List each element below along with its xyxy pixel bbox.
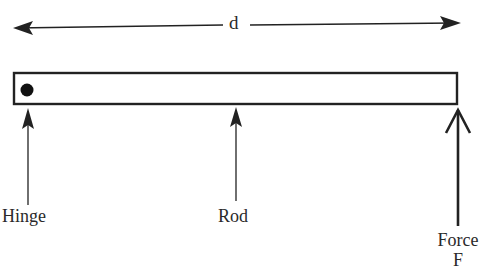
dimension-label-d: d (229, 12, 239, 34)
hinge-label: Hinge (2, 206, 46, 226)
hinge-pointer-arrow (22, 108, 34, 205)
rod-label: Rod (218, 206, 248, 226)
rod-pointer-arrow (230, 107, 242, 201)
rod-body (14, 73, 457, 104)
force-label-line2: F (430, 250, 486, 270)
force-label-line1: Force (430, 230, 486, 250)
force-label: Force F (430, 230, 486, 270)
hinge-pivot-icon (21, 84, 34, 97)
force-arrow (446, 110, 470, 226)
dimension-line-right (250, 23, 455, 25)
lever-diagram (0, 0, 490, 270)
dimension-line-left (16, 25, 223, 28)
